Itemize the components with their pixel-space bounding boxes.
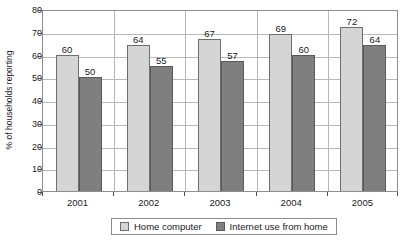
y-tick-label: 70 — [6, 28, 42, 38]
bar-chart: % of households reporting 01020304050607… — [0, 0, 416, 240]
x-tick-mark — [327, 192, 328, 196]
group-separator — [257, 11, 258, 191]
bar-value-label: 67 — [204, 28, 215, 39]
bar-value-label: 60 — [298, 44, 309, 55]
x-tick-label-2001: 2001 — [67, 197, 88, 208]
chart-legend: Home computerInternet use from home — [111, 218, 337, 235]
group-separator — [114, 11, 115, 191]
y-tick-label: 60 — [6, 51, 42, 61]
bar-value-label: 72 — [347, 16, 358, 27]
group-separator — [328, 11, 329, 191]
bar-2003-internet-use — [221, 61, 244, 191]
legend-label: Internet use from home — [230, 221, 328, 232]
bar-value-label: 64 — [370, 34, 381, 45]
x-tick-mark — [113, 192, 114, 196]
group-separator — [185, 11, 186, 191]
plot-inner: 60506455675769607264 — [43, 11, 397, 191]
x-tick-mark — [42, 192, 43, 196]
legend-swatch-icon — [120, 222, 129, 231]
bar-value-label: 57 — [227, 50, 238, 61]
y-tick-label: 50 — [6, 73, 42, 83]
bar-2005-home-computer — [340, 27, 363, 191]
bar-value-label: 60 — [62, 44, 73, 55]
x-tick-mark — [256, 192, 257, 196]
bar-2004-internet-use — [292, 55, 315, 192]
x-tick-mark — [184, 192, 185, 196]
x-tick-label-2002: 2002 — [138, 197, 159, 208]
bar-value-label: 55 — [156, 55, 167, 66]
y-tick-label: 0 — [6, 187, 42, 197]
bar-value-label: 64 — [133, 34, 144, 45]
bar-2004-home-computer — [269, 34, 292, 191]
bar-2003-home-computer — [198, 39, 221, 191]
plot-area: 60506455675769607264 — [42, 10, 398, 192]
y-tick-label: 10 — [6, 164, 42, 174]
bar-value-label: 50 — [85, 66, 96, 77]
x-tick-mark — [397, 192, 398, 196]
bar-2002-internet-use — [150, 66, 173, 191]
bar-2001-internet-use — [79, 77, 102, 191]
y-axis: 01020304050607080 — [0, 10, 42, 192]
bar-2002-home-computer — [127, 45, 150, 191]
legend-swatch-icon — [216, 222, 225, 231]
x-tick-label-2005: 2005 — [352, 197, 373, 208]
y-tick-label: 20 — [6, 142, 42, 152]
y-tick-label: 40 — [6, 96, 42, 106]
y-tick-label: 80 — [6, 5, 42, 15]
y-tick-label: 30 — [6, 119, 42, 129]
x-axis: 20012002200320042005 — [42, 192, 398, 212]
legend-item-internet-use[interactable]: Internet use from home — [216, 221, 328, 232]
legend-label: Home computer — [134, 221, 202, 232]
x-tick-label-2003: 2003 — [209, 197, 230, 208]
bar-value-label: 69 — [275, 23, 286, 34]
legend-item-home-computer[interactable]: Home computer — [120, 221, 202, 232]
bar-2005-internet-use — [363, 45, 386, 191]
bar-2001-home-computer — [56, 55, 79, 192]
x-tick-label-2004: 2004 — [281, 197, 302, 208]
